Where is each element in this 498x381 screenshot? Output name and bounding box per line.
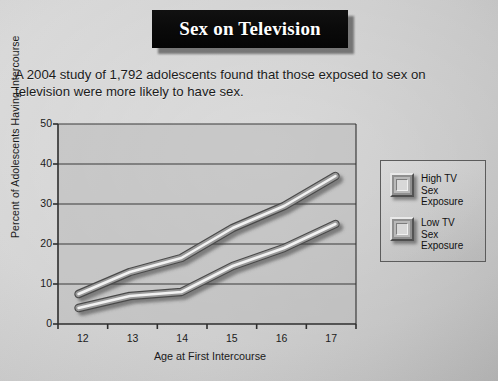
x-axis-title: Age at First Intercourse xyxy=(70,350,350,362)
beveled-square-swatch-icon xyxy=(390,217,414,241)
y-tick-label: 50 xyxy=(28,117,52,129)
y-tick-label: 0 xyxy=(28,317,52,329)
legend-item-high-tv: High TV Sex Exposure xyxy=(390,173,463,208)
legend-label-low-tv: Low TV Sex Exposure xyxy=(421,217,463,252)
beveled-square-swatch-icon xyxy=(390,173,414,197)
legend-item-low-tv: Low TV Sex Exposure xyxy=(390,217,463,252)
y-tick-label: 40 xyxy=(28,157,52,169)
x-tick-label: 14 xyxy=(168,332,196,344)
chart-page: Sex on Television A 2004 study of 1,792 … xyxy=(0,0,498,381)
y-tick-label: 20 xyxy=(28,237,52,249)
legend-label-high-tv: High TV Sex Exposure xyxy=(421,173,463,208)
y-tick-label: 30 xyxy=(28,197,52,209)
legend-label-line2: Sex xyxy=(421,229,463,241)
legend-label-line2: Sex xyxy=(421,185,463,197)
legend-label-line3: Exposure xyxy=(421,196,463,208)
chart-legend: High TV Sex Exposure Low TV Sex Exposure xyxy=(380,160,486,262)
legend-label-line1: High TV xyxy=(421,173,463,185)
x-tick-label: 17 xyxy=(317,332,345,344)
legend-label-line1: Low TV xyxy=(421,217,463,229)
x-tick-label: 16 xyxy=(268,332,296,344)
y-tick-label: 10 xyxy=(28,277,52,289)
x-tick-label: 15 xyxy=(218,332,246,344)
x-tick-label: 13 xyxy=(119,332,147,344)
legend-label-line3: Exposure xyxy=(421,240,463,252)
x-tick-label: 12 xyxy=(69,332,97,344)
y-axis-title: Percent of Adolescents Having Intercours… xyxy=(9,38,21,238)
